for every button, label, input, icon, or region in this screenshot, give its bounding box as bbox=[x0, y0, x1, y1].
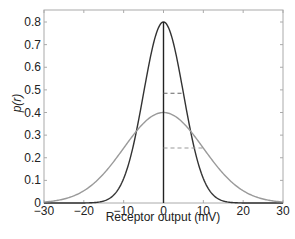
x-axis-label: Receptor output (mV) bbox=[106, 210, 221, 224]
x-axis-ticks: −30−20−100102030 bbox=[34, 10, 290, 218]
y-tick-label: 0.7 bbox=[24, 38, 41, 52]
x-tick-label: 20 bbox=[236, 204, 250, 218]
plot-annotations bbox=[164, 22, 204, 203]
y-tick-label: 0.3 bbox=[24, 128, 41, 142]
y-tick-label: 0.6 bbox=[24, 60, 41, 74]
y-tick-label: 0.1 bbox=[24, 173, 41, 187]
y-tick-label: 0.4 bbox=[24, 106, 41, 120]
x-tick-label: −20 bbox=[74, 204, 95, 218]
y-tick-label: 0.2 bbox=[24, 151, 41, 165]
y-tick-label: 0.8 bbox=[24, 15, 41, 29]
y-axis-label: p(r) bbox=[10, 94, 24, 114]
x-tick-label: 30 bbox=[276, 204, 290, 218]
chart: 00.10.20.30.40.50.60.70.8 −30−20−1001020… bbox=[0, 0, 295, 239]
y-tick-label: 0.5 bbox=[24, 83, 41, 97]
x-tick-label: −30 bbox=[34, 204, 55, 218]
